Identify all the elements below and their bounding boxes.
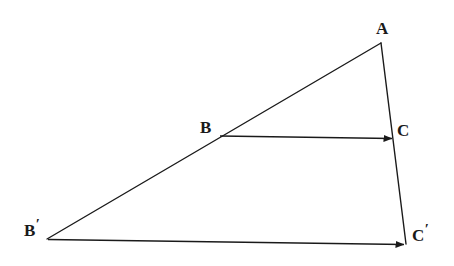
vertex-label-c: C: [397, 122, 409, 139]
vector-B-to-C: [220, 136, 392, 139]
segment-A-to-Bprime: [47, 43, 381, 239]
vector-Bprime-to-Cprime: [48, 240, 404, 245]
vertex-label-c-prime-letter: C: [412, 226, 424, 245]
prime-mark-c: ′: [424, 221, 428, 237]
vertex-label-b-prime: B′: [24, 222, 40, 239]
vertex-label-b: B: [200, 119, 212, 136]
vertex-label-b-prime-letter: B: [24, 221, 36, 240]
prime-mark-b: ′: [36, 216, 40, 232]
vertex-label-a: A: [376, 20, 388, 37]
vertex-label-c-prime: C′: [412, 227, 429, 244]
geometry-figure: [0, 0, 454, 266]
segment-A-to-Cprime: [381, 43, 406, 244]
